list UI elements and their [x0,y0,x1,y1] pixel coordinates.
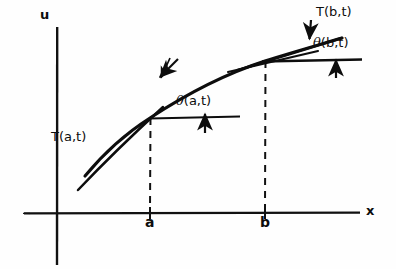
theta-glyph-b: θ [313,35,321,50]
tick-label-a: a [145,215,154,229]
angle-label-b: θ(b,t) [313,36,348,49]
pointer-arrows-group [160,20,336,133]
axes-group [23,27,360,265]
pointer-arrow-tangent-b [310,20,312,39]
dashed-drop-a [150,118,151,211]
dashed-drop-b [265,61,266,211]
horizontal-reference-line-a [150,117,240,119]
x-axis-line [24,213,360,214]
u-axis-label: u [40,8,49,21]
displacement-curve-group [85,38,342,176]
tension-label-a: T(a,t) [51,130,86,143]
theta-glyph-a: θ [176,93,184,108]
tick-label-b: b [260,215,270,229]
angle-label-b-args: (b,t) [321,35,349,50]
horizontal-reference-a-group [150,117,240,119]
displacement-curve [85,38,342,176]
angle-label-a: θ(a,t) [176,94,211,107]
angle-label-a-args: (a,t) [184,93,211,108]
figure-canvas: u x a b T(a,t) T(b,t) θ(a,t) θ(b,t) [0,0,396,269]
tension-label-b: T(b,t) [316,5,352,18]
x-axis-label: x [366,204,374,217]
